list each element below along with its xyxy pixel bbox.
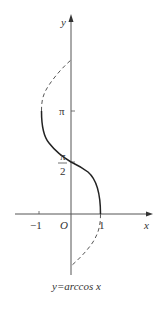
curve-dashed-lower <box>71 214 101 266</box>
x-tick-label-1: 1 <box>99 219 105 231</box>
x-axis <box>15 212 153 217</box>
y-axis-label: y <box>60 16 66 28</box>
pi-half-denominator: 2 <box>60 165 66 177</box>
y-tick-label-pi-half: π 2 <box>58 150 67 177</box>
y-axis <box>69 14 74 275</box>
x-axis-arrow-icon <box>146 212 153 217</box>
y-axis-arrow-icon <box>69 14 74 22</box>
origin-label: O <box>60 219 68 231</box>
arccos-graph: y x O −1 1 π π 2 y=arccos x <box>0 0 162 310</box>
figure-caption: y=arccos x <box>51 280 101 292</box>
y-tick-label-pi: π <box>59 105 65 117</box>
x-tick-label-neg1: −1 <box>30 219 42 231</box>
x-axis-label: x <box>143 219 149 231</box>
curve-dashed-upper <box>42 60 72 111</box>
pi-half-numerator: π <box>60 150 66 162</box>
